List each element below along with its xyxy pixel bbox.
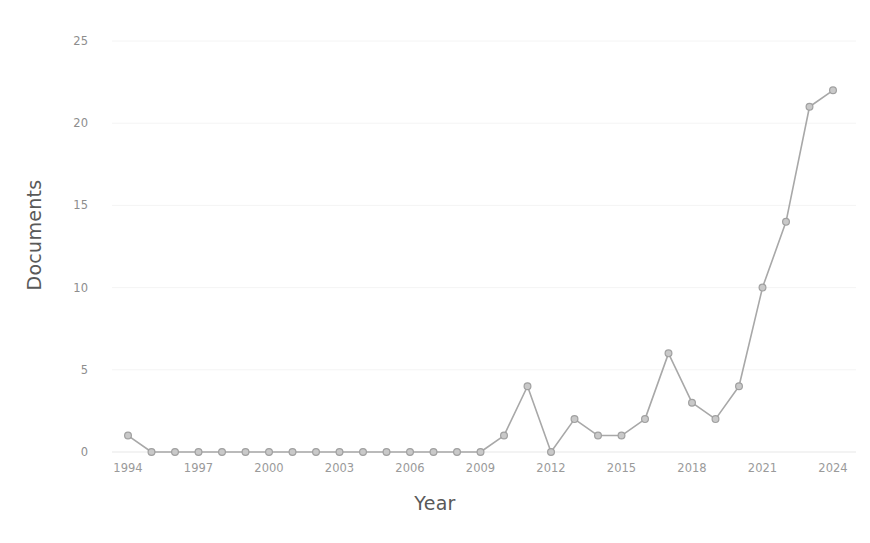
data-point xyxy=(454,449,461,456)
data-point xyxy=(360,449,367,456)
y-axis-tick-label: 25 xyxy=(42,34,88,48)
data-point xyxy=(571,416,578,423)
data-point xyxy=(501,432,508,439)
data-point xyxy=(172,449,179,456)
y-axis-tick-label: 20 xyxy=(42,116,88,130)
data-point xyxy=(783,218,790,225)
data-point xyxy=(759,284,766,291)
chart-container: Documents 0510152025 1994199720002003200… xyxy=(0,0,870,543)
data-point xyxy=(830,87,837,94)
y-axis-tick-label: 5 xyxy=(42,363,88,377)
data-point xyxy=(524,383,531,390)
x-axis-tick-label: 2000 xyxy=(254,461,283,475)
x-axis-tick-label: 2018 xyxy=(677,461,706,475)
x-axis-tick-label: 2021 xyxy=(748,461,777,475)
x-axis-tick-label: 1997 xyxy=(184,461,213,475)
y-axis-tick-label: 0 xyxy=(42,445,88,459)
data-point xyxy=(148,449,155,456)
x-axis-title: Year xyxy=(0,492,870,514)
data-point xyxy=(806,103,813,110)
data-point xyxy=(430,449,437,456)
data-point xyxy=(642,416,649,423)
data-point xyxy=(289,449,296,456)
data-point xyxy=(736,383,743,390)
data-point xyxy=(195,449,202,456)
x-axis-tick-label: 2006 xyxy=(395,461,424,475)
data-point xyxy=(219,449,226,456)
x-axis-tick-label: 2003 xyxy=(325,461,354,475)
y-axis-tick-label: 10 xyxy=(42,281,88,295)
data-point xyxy=(595,432,602,439)
y-axis-tick-label: 15 xyxy=(42,198,88,212)
data-point xyxy=(548,449,555,456)
x-axis-tick-label: 2024 xyxy=(818,461,847,475)
data-point xyxy=(665,350,672,357)
gridlines xyxy=(112,41,856,452)
data-point xyxy=(383,449,390,456)
x-axis-tick-label: 2012 xyxy=(536,461,565,475)
data-point xyxy=(242,449,249,456)
x-axis-tick-label: 2015 xyxy=(607,461,636,475)
data-point xyxy=(689,399,696,406)
data-point xyxy=(712,416,719,423)
x-axis-tick-label: 2009 xyxy=(466,461,495,475)
x-axis-title-text: Year xyxy=(414,492,455,514)
data-point xyxy=(266,449,273,456)
data-point xyxy=(125,432,132,439)
x-axis-tick-label: 1994 xyxy=(113,461,142,475)
data-point xyxy=(618,432,625,439)
data-point xyxy=(336,449,343,456)
data-point xyxy=(477,449,484,456)
data-point xyxy=(407,449,414,456)
data-point xyxy=(313,449,320,456)
series-line-documents xyxy=(128,90,833,452)
